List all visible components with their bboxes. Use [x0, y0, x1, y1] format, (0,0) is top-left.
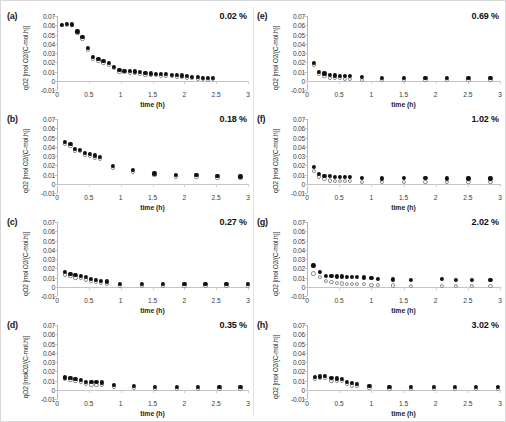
y-tick-mark: [54, 344, 57, 345]
y-ticks-f: 0.070.060.050.040.030.020.010-0.01: [281, 119, 305, 193]
y-tick-label: -0.01: [291, 87, 305, 94]
y-tick-mark: [54, 362, 57, 363]
data-point-open: [327, 178, 331, 182]
x-tick-label: 2: [434, 194, 438, 201]
x-tick-mark: [371, 390, 372, 393]
x-tick-label: 2: [434, 91, 438, 98]
panel-letter-a: (a): [7, 11, 17, 21]
y-tick-mark: [54, 16, 57, 17]
x-tick-mark: [436, 390, 437, 393]
data-point-filled: [488, 278, 492, 282]
y-tick-mark: [304, 250, 307, 251]
data-point-open: [322, 177, 326, 181]
x-tick-label: 2.5: [463, 297, 472, 304]
data-point-filled: [329, 274, 333, 278]
y-tick-mark: [304, 72, 307, 73]
x-tick-label: 2: [182, 91, 186, 98]
x-tick-mark: [57, 184, 58, 187]
x-tick-mark: [371, 184, 372, 187]
y-ticks-a: 0.070.060.050.040.030.020.010-0.01: [31, 16, 55, 90]
x-axis-label-a: time (h): [57, 101, 248, 108]
x-tick-mark: [89, 287, 90, 290]
y-tick-mark: [304, 231, 307, 232]
x-tick-mark: [184, 81, 185, 84]
y-axis-line: [307, 119, 308, 193]
x-tick-mark: [500, 184, 501, 187]
x-tick-mark: [468, 287, 469, 290]
x-tick-mark: [248, 390, 249, 393]
y-tick-mark: [304, 344, 307, 345]
x-tick-mark: [216, 184, 217, 187]
x-tick-label: 3: [498, 194, 502, 201]
x-tick-mark: [404, 390, 405, 393]
panel-a: (a)0.02 %qO2 [mol O2/(C-mol.h)]0.070.060…: [5, 5, 251, 109]
x-tick-label: 1.5: [148, 400, 157, 407]
data-point-filled: [350, 275, 354, 279]
data-point-open: [355, 282, 359, 286]
x-ticks-b: 00.511.522.53: [57, 194, 248, 204]
y-tick-mark: [304, 334, 307, 335]
y-axis-label-f: qO2 [mol O2/(C-mol.h)]: [268, 119, 281, 203]
y-tick-mark: [54, 72, 57, 73]
y-tick-mark: [54, 44, 57, 45]
y-tick-mark: [304, 53, 307, 54]
y-tick-mark: [304, 119, 307, 120]
y-ticks-e: 0.070.060.050.040.030.020.010-0.01: [281, 16, 305, 90]
panel-letter-f: (f): [257, 114, 265, 124]
y-tick-mark: [54, 250, 57, 251]
x-tick-mark: [339, 184, 340, 187]
data-point-filled: [423, 176, 427, 180]
x-tick-label: 2.5: [463, 91, 472, 98]
y-tick-mark: [54, 371, 57, 372]
x-tick-label: 1: [369, 400, 373, 407]
x-tick-label: 1.5: [399, 91, 408, 98]
y-tick-mark: [304, 25, 307, 26]
y-ticks-b: 0.070.060.050.040.030.020.010-0.01: [31, 119, 55, 193]
y-axis-label-g: qO2 [mol O2/(C-mol.h)]: [268, 222, 281, 306]
data-point-filled: [454, 278, 458, 282]
x-tick-mark: [89, 184, 90, 187]
x-tick-label: 2.5: [463, 194, 472, 201]
y-ticks-d: 0.070.060.050.040.030.020.010-0.01: [31, 325, 55, 399]
data-point-open: [350, 282, 354, 286]
data-point-filled: [402, 176, 406, 180]
x-tick-mark: [307, 81, 308, 84]
x-axis-label-c: time (h): [57, 307, 248, 314]
data-point-open: [338, 179, 342, 183]
data-point-open: [333, 179, 337, 183]
x-ticks-c: 00.511.522.53: [57, 297, 248, 307]
x-tick-label: 2: [434, 400, 438, 407]
x-tick-label: 0.5: [335, 91, 344, 98]
y-tick-mark: [304, 62, 307, 63]
x-ticks-d: 00.511.522.53: [57, 400, 248, 410]
x-tick-label: 1.5: [148, 297, 157, 304]
data-point-filled: [340, 274, 344, 278]
x-tick-mark: [371, 287, 372, 290]
data-point-filled: [470, 278, 474, 282]
data-point-filled: [324, 274, 328, 278]
plot-area-f: [307, 119, 500, 193]
y-tick-label: -0.01: [291, 293, 305, 300]
x-tick-label: 0: [305, 194, 309, 201]
y-tick-mark: [304, 147, 307, 148]
data-point-filled: [362, 275, 366, 279]
y-tick-mark: [54, 25, 57, 26]
data-point-filled: [440, 277, 444, 281]
data-point-open: [343, 179, 347, 183]
x-tick-label: 0: [55, 91, 59, 98]
x-tick-label: 2.5: [463, 400, 472, 407]
panel-letter-e: (e): [257, 11, 267, 21]
y-tick-label: -0.01: [41, 396, 55, 403]
data-point-filled: [345, 275, 349, 279]
plot-area-d: [57, 325, 248, 399]
x-tick-mark: [153, 81, 154, 84]
y-tick-label: -0.01: [291, 396, 305, 403]
x-tick-label: 1: [369, 297, 373, 304]
x-tick-label: 0.5: [335, 194, 344, 201]
y-tick-label: -0.01: [41, 293, 55, 300]
x-tick-label: 2: [182, 400, 186, 407]
y-tick-label: -0.01: [291, 190, 305, 197]
y-axis-label-c: qO2 [mol O2/(C-mol.h)]: [18, 222, 31, 306]
y-tick-mark: [304, 362, 307, 363]
x-tick-label: 0.5: [335, 400, 344, 407]
